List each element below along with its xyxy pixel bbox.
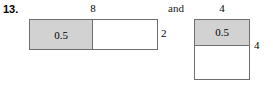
right-figure-side-dimension-label: 4	[254, 39, 260, 52]
left-figure-rectangle: 0.5	[29, 19, 158, 50]
left-figure-top-dimension-label: 8	[87, 2, 99, 15]
left-figure-shaded-region: 0.5	[30, 20, 93, 49]
conjunction-text: and	[168, 1, 184, 15]
exercise-figure-panel: 13. 8 0.5 2 and 4 0.5 4	[0, 0, 273, 85]
left-figure-shaded-value: 0.5	[30, 29, 92, 42]
problem-number: 13.	[3, 2, 18, 16]
right-figure-shaded-value: 0.5	[195, 26, 249, 39]
right-figure-shaded-region: 0.5	[195, 20, 249, 46]
right-figure-top-dimension-label: 4	[216, 2, 228, 15]
left-figure-side-dimension-label: 2	[161, 27, 167, 40]
right-figure-rectangle: 0.5	[194, 19, 250, 80]
